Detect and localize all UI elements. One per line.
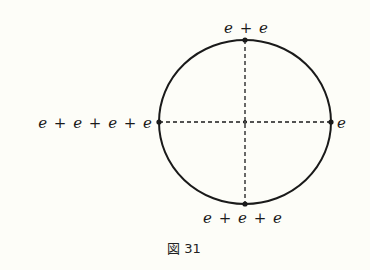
- label-top: e + e: [224, 21, 268, 36]
- label-bottom: e + e + e: [203, 211, 282, 226]
- figure-caption: 図 31: [167, 238, 201, 257]
- circle-diagram: [0, 0, 370, 270]
- point-right: [328, 119, 333, 124]
- label-right: e: [337, 116, 346, 131]
- label-left: e + e + e + e: [38, 116, 152, 131]
- point-bottom: [242, 201, 247, 206]
- point-top: [242, 37, 247, 42]
- point-left: [156, 119, 161, 124]
